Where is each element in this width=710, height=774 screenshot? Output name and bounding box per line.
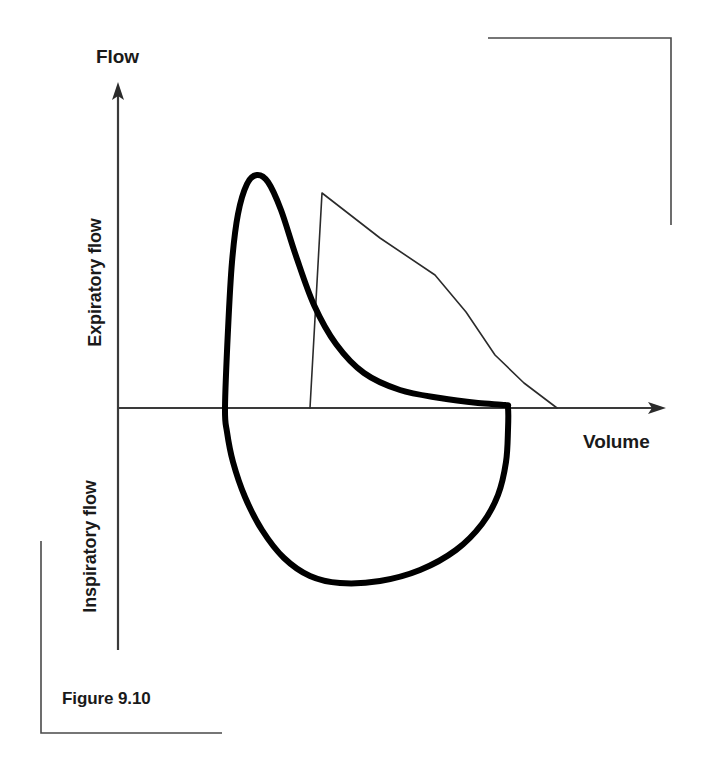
y-axis [112, 82, 124, 650]
patient-flow-volume-loop [225, 175, 508, 583]
x-axis [118, 402, 666, 414]
expiratory-flow-quadrant-label: Expiratory flow [85, 183, 106, 383]
figure-caption: Figure 9.10 [62, 689, 151, 709]
figure-container: Flow Volume Expiratory flow Inspiratory … [0, 0, 710, 774]
inspiratory-flow-quadrant-label: Inspiratory flow [80, 442, 101, 652]
corner-bracket-top-right [488, 38, 671, 225]
y-axis-label: Flow [96, 46, 139, 68]
x-axis-label: Volume [583, 431, 650, 453]
reference-expiratory-curve [310, 193, 557, 408]
flow-volume-loop-chart [0, 0, 710, 774]
